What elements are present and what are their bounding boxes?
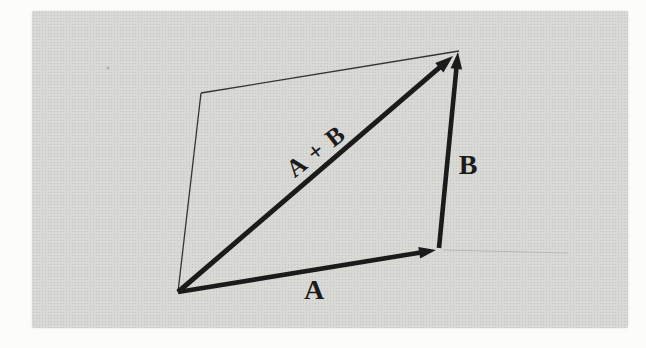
vector-a-plus-b-arrow bbox=[178, 56, 453, 292]
label-vector-a: A bbox=[304, 276, 324, 304]
paper-speck bbox=[106, 66, 109, 69]
vector-a-arrowhead bbox=[418, 247, 436, 258]
label-vector-b: B bbox=[459, 151, 478, 179]
ghost-scan-line bbox=[443, 250, 568, 253]
paper-specks bbox=[106, 66, 109, 69]
vector-b-arrowhead bbox=[451, 52, 463, 69]
parallelogram-left-side bbox=[178, 93, 201, 292]
